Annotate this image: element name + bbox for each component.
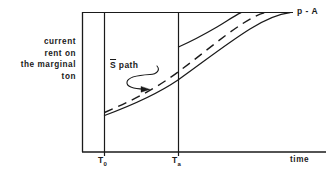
s-path-label: S path: [110, 60, 138, 70]
x-tick-label-t0: T0: [98, 155, 107, 167]
y-axis-label-line-2: rent on: [6, 48, 76, 60]
y-axis-label-line-1: current: [6, 36, 76, 48]
ceiling-label: p - A: [297, 6, 318, 16]
figure-container: current rent on the marginal ton T0 Ta t…: [0, 0, 333, 175]
x-tick-label-ta: Ta: [172, 155, 181, 167]
y-axis-label-line-4: ton: [6, 71, 76, 83]
x-tick-ta-subscript: a: [178, 161, 181, 167]
y-axis-label: current rent on the marginal ton: [6, 36, 76, 82]
plot-canvas: [0, 0, 333, 175]
s-path-label-text: path: [116, 60, 138, 70]
x-tick-t0-subscript: 0: [104, 161, 107, 167]
x-axis-label: time: [290, 155, 309, 164]
y-axis-label-line-3: the marginal: [6, 59, 76, 71]
